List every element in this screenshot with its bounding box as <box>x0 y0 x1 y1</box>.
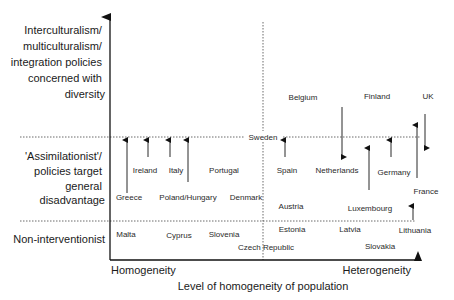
x-axis-right-label: Heterogeneity <box>343 264 412 276</box>
country-italy: Italy <box>169 166 184 175</box>
country-czech-republic: Czech Republic <box>238 243 294 252</box>
country-slovenia: Slovenia <box>209 230 240 239</box>
country-sweden: Sweden <box>249 133 278 142</box>
country-netherlands: Netherlands <box>315 166 358 175</box>
country-spain: Spain <box>277 166 297 175</box>
country-lithuania: Lithuania <box>399 226 432 235</box>
country-germany: Germany <box>378 168 411 177</box>
country-portugal: Portugal <box>209 166 239 175</box>
country-malta: Malta <box>116 230 136 239</box>
y-category-assimilationist: 'Assimilationist'/ policies target gener… <box>25 150 105 206</box>
y-category-noninterventionist: Non-interventionist <box>13 233 105 245</box>
y-category-intercultural: Interculturalism/ multiculturalism/ inte… <box>11 24 106 100</box>
country-slovakia: Slovakia <box>365 242 396 251</box>
country-finland: Finland <box>364 92 390 101</box>
country-austria: Austria <box>279 202 304 211</box>
country-belgium: Belgium <box>289 93 318 102</box>
country-denmark: Denmark <box>230 193 263 202</box>
country-latvia: Latvia <box>339 225 361 234</box>
policy-homogeneity-diagram: Interculturalism/ multiculturalism/ inte… <box>0 0 454 300</box>
x-axis-title: Level of homogeneity of population <box>178 280 349 292</box>
country-cyprus: Cyprus <box>166 231 191 240</box>
country-ireland: Ireland <box>133 166 157 175</box>
country-greece: Greece <box>116 193 143 202</box>
country-luxembourg: Luxembourg <box>348 204 392 213</box>
country-poland-hungary: Poland/Hungary <box>159 193 216 202</box>
country-uk: UK <box>422 92 434 101</box>
country-estonia: Estonia <box>279 225 306 234</box>
x-axis-left-label: Homogeneity <box>111 264 176 276</box>
country-france: France <box>414 187 439 196</box>
